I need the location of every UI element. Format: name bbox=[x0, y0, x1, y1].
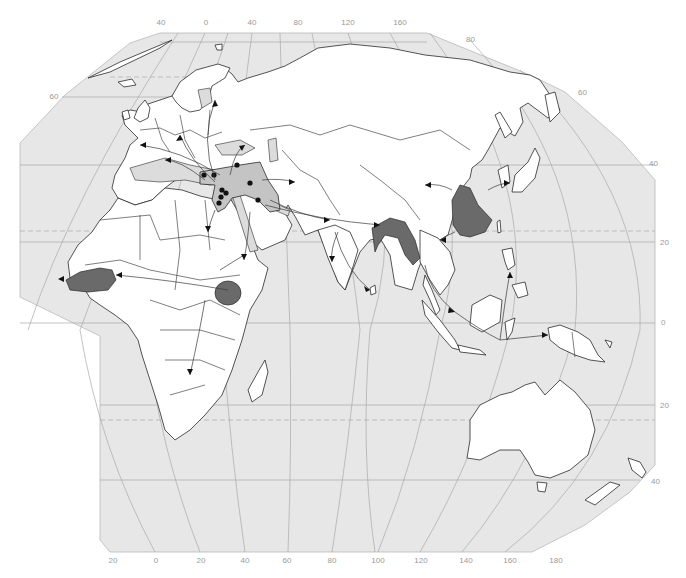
lon-label-top-4: 120 bbox=[341, 18, 354, 27]
lon-label-bottom-3: 40 bbox=[241, 556, 250, 565]
lon-label-bottom-7: 120 bbox=[414, 556, 427, 565]
taiwan bbox=[497, 220, 501, 233]
lon-label-top-1: 0 bbox=[204, 18, 208, 27]
lon-label-top-2: 40 bbox=[248, 18, 257, 27]
lat-label-left-0: 60 bbox=[50, 92, 59, 101]
lon-label-bottom-2: 20 bbox=[197, 556, 206, 565]
caspian-sea bbox=[268, 138, 278, 162]
lon-label-bottom-8: 140 bbox=[459, 556, 472, 565]
lat-label-right-6: 40 bbox=[651, 477, 660, 486]
lon-label-bottom-10: 180 bbox=[549, 556, 562, 565]
tasmania bbox=[537, 482, 547, 492]
lat-label-right-1: 60 bbox=[578, 88, 587, 97]
lat-label-right-0: 80 bbox=[466, 35, 475, 44]
map-canvas bbox=[0, 0, 686, 578]
lon-label-top-0: 40 bbox=[157, 18, 166, 27]
lon-label-bottom-4: 60 bbox=[283, 556, 292, 565]
lat-label-right-4: 0 bbox=[661, 318, 665, 327]
ethiopia-origin bbox=[215, 281, 241, 305]
lat-label-right-2: 40 bbox=[649, 159, 658, 168]
lat-label-right-3: 20 bbox=[660, 238, 669, 247]
lon-label-bottom-6: 100 bbox=[371, 556, 384, 565]
lon-label-bottom-1: 0 bbox=[154, 556, 158, 565]
lat-label-right-5: 20 bbox=[660, 401, 669, 410]
lon-label-top-3: 80 bbox=[294, 18, 303, 27]
world-map: 40 0 40 80 120 160 20 0 20 40 60 80 100 … bbox=[0, 0, 686, 578]
lon-label-bottom-5: 80 bbox=[328, 556, 337, 565]
lon-label-top-5: 160 bbox=[393, 18, 406, 27]
lon-label-bottom-0: 20 bbox=[109, 556, 118, 565]
lon-label-bottom-9: 160 bbox=[503, 556, 516, 565]
